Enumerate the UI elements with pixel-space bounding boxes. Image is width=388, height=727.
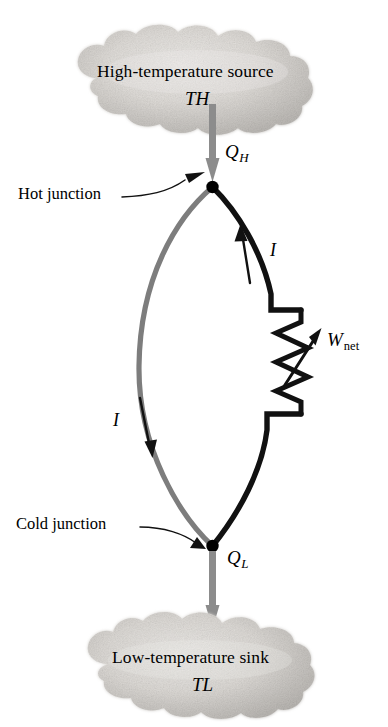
w-net-symbol: W <box>327 329 343 350</box>
hot-junction-leader <box>122 180 185 197</box>
hot-temperature-symbol: TH <box>185 89 209 108</box>
q-h-subscript: H <box>239 150 248 165</box>
w-net-label: Wnet <box>327 330 358 349</box>
hot-temperature-symbol-subscript: H <box>196 88 210 109</box>
hot-junction-leader-arrowhead <box>185 172 205 183</box>
w-net-subscript: net <box>344 339 359 353</box>
cold-junction-dot <box>206 540 218 552</box>
low-temperature-sink-label: Low-temperature sink <box>112 649 269 667</box>
q-l-symbol: Q <box>227 547 241 568</box>
hot-temperature-symbol-base: T <box>185 88 196 109</box>
left-gray-wire <box>139 187 213 546</box>
q-l-label: QL <box>227 548 248 567</box>
diagram-canvas <box>0 0 388 727</box>
resistor-symbol <box>276 310 308 414</box>
current-right-label: I <box>270 241 276 259</box>
cold-junction-label: Cold junction <box>16 516 106 533</box>
current-left-label: I <box>113 411 119 429</box>
high-temperature-source-label: High-temperature source <box>97 63 274 81</box>
q-l-subscript: L <box>241 556 248 571</box>
thermoelectric-generator-figure: High-temperature source TH QH Hot juncti… <box>0 0 388 727</box>
hot-junction-label: Hot junction <box>18 186 101 203</box>
q-h-symbol: Q <box>225 141 239 162</box>
right-black-wire-lower <box>213 414 302 546</box>
cold-temperature-symbol-subscript: L <box>203 674 214 695</box>
right-black-wire-upper <box>213 187 302 310</box>
cold-temperature-symbol: TL <box>192 675 213 694</box>
q-h-label: QH <box>225 142 248 161</box>
hot-junction-dot <box>206 181 218 193</box>
cold-junction-leader <box>140 527 196 543</box>
cold-temperature-symbol-base: T <box>192 674 203 695</box>
